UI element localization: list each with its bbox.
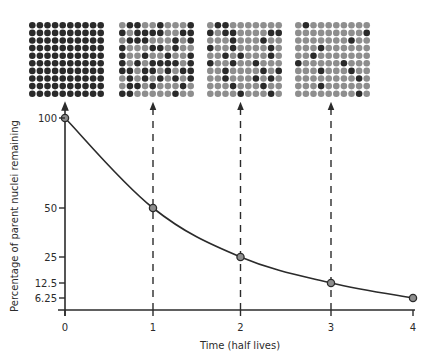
parent-nucleus xyxy=(37,83,44,90)
decayed-nucleus xyxy=(341,30,348,37)
parent-nucleus xyxy=(82,60,89,67)
decayed-nucleus xyxy=(318,90,325,97)
parent-nucleus xyxy=(237,52,244,59)
parent-nucleus xyxy=(127,75,134,82)
decayed-nucleus xyxy=(275,90,282,97)
parent-nucleus xyxy=(356,75,363,82)
decayed-nucleus xyxy=(134,75,141,82)
parent-nucleus xyxy=(149,83,156,90)
decayed-nucleus xyxy=(187,45,194,52)
parent-nucleus xyxy=(37,45,44,52)
parent-nucleus xyxy=(29,22,36,29)
decayed-nucleus xyxy=(157,68,164,75)
parent-nucleus xyxy=(52,22,59,29)
parent-nucleus xyxy=(52,45,59,52)
parent-nucleus xyxy=(97,37,104,44)
parent-nucleus xyxy=(222,30,229,37)
decay-curve xyxy=(65,118,413,298)
parent-nucleus xyxy=(275,68,282,75)
decayed-nucleus xyxy=(222,83,229,90)
decayed-nucleus xyxy=(230,68,237,75)
parent-nucleus xyxy=(90,60,97,67)
decayed-nucleus xyxy=(260,75,267,82)
decayed-nucleus xyxy=(180,52,187,59)
parent-nucleus xyxy=(127,22,134,29)
parent-nucleus xyxy=(59,90,66,97)
parent-nucleus xyxy=(67,75,74,82)
parent-nucleus xyxy=(260,68,267,75)
parent-nucleus xyxy=(348,68,355,75)
decayed-nucleus xyxy=(207,68,214,75)
decayed-nucleus xyxy=(245,83,252,90)
parent-nucleus xyxy=(348,37,355,44)
decayed-nucleus xyxy=(253,83,260,90)
decayed-nucleus xyxy=(268,60,275,67)
parent-nucleus xyxy=(37,90,44,97)
parent-nucleus xyxy=(82,83,89,90)
y-tick-label: 100 xyxy=(38,113,57,124)
decayed-nucleus xyxy=(318,75,325,82)
parent-nucleus xyxy=(295,60,302,67)
decayed-nucleus xyxy=(295,22,302,29)
decayed-nucleus xyxy=(237,83,244,90)
parent-nucleus xyxy=(363,30,370,37)
decayed-nucleus xyxy=(363,22,370,29)
x-tick-label: 0 xyxy=(62,322,68,333)
dashed-arrows xyxy=(153,106,331,310)
parent-nucleus xyxy=(142,52,149,59)
decayed-nucleus xyxy=(207,83,214,90)
parent-nucleus xyxy=(59,60,66,67)
parent-nucleus xyxy=(75,75,82,82)
decayed-nucleus xyxy=(215,45,222,52)
decayed-nucleus xyxy=(295,52,302,59)
decayed-nucleus xyxy=(237,75,244,82)
parent-nucleus xyxy=(37,68,44,75)
decayed-nucleus xyxy=(295,90,302,97)
parent-nucleus xyxy=(75,60,82,67)
decayed-nucleus xyxy=(363,60,370,67)
decayed-nucleus xyxy=(310,30,317,37)
decayed-nucleus xyxy=(275,60,282,67)
parent-nucleus xyxy=(90,45,97,52)
parent-nucleus xyxy=(268,75,275,82)
parent-nucleus xyxy=(37,60,44,67)
decayed-nucleus xyxy=(157,37,164,44)
parent-nucleus xyxy=(67,60,74,67)
parent-nucleus xyxy=(187,75,194,82)
decayed-nucleus xyxy=(348,83,355,90)
parent-nucleus xyxy=(149,60,156,67)
decayed-nucleus xyxy=(303,52,310,59)
decayed-nucleus xyxy=(215,37,222,44)
decayed-nucleus xyxy=(142,90,149,97)
decayed-nucleus xyxy=(207,22,214,29)
parent-nucleus xyxy=(44,90,51,97)
parent-nucleus xyxy=(52,90,59,97)
decayed-nucleus xyxy=(333,22,340,29)
decayed-nucleus xyxy=(253,68,260,75)
parent-nucleus xyxy=(82,30,89,37)
parent-nucleus xyxy=(82,22,89,29)
decayed-nucleus xyxy=(253,52,260,59)
decayed-nucleus xyxy=(341,22,348,29)
parent-nucleus xyxy=(230,83,237,90)
decayed-nucleus xyxy=(363,45,370,52)
parent-nucleus xyxy=(222,52,229,59)
parent-nucleus xyxy=(157,75,164,82)
decayed-nucleus xyxy=(253,30,260,37)
data-point-4 xyxy=(409,294,416,301)
decayed-nucleus xyxy=(260,90,267,97)
parent-nucleus xyxy=(90,30,97,37)
data-points xyxy=(61,114,416,301)
parent-nucleus xyxy=(82,45,89,52)
decayed-nucleus xyxy=(237,37,244,44)
decayed-nucleus xyxy=(318,60,325,67)
decayed-nucleus xyxy=(325,45,332,52)
decayed-nucleus xyxy=(325,83,332,90)
parent-nucleus xyxy=(127,83,134,90)
parent-nucleus xyxy=(127,90,134,97)
parent-nucleus xyxy=(37,75,44,82)
parent-nucleus xyxy=(172,90,179,97)
parent-nucleus xyxy=(29,45,36,52)
decayed-nucleus xyxy=(275,52,282,59)
decayed-nucleus xyxy=(222,60,229,67)
